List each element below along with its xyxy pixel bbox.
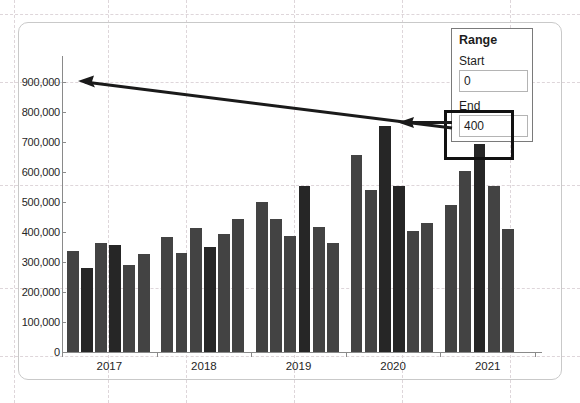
bar bbox=[365, 190, 377, 352]
x-tick-mark bbox=[251, 352, 252, 357]
start-label: Start bbox=[452, 51, 532, 70]
y-tick-label: 900,000 bbox=[18, 76, 60, 88]
x-axis-group-label: 2019 bbox=[286, 360, 312, 372]
bar bbox=[138, 254, 150, 352]
x-axis-group-label: 2020 bbox=[380, 360, 406, 372]
bar bbox=[176, 253, 188, 352]
x-axis-group-label: 2017 bbox=[97, 360, 123, 372]
bar bbox=[502, 229, 514, 352]
background-gridline-h bbox=[0, 14, 580, 15]
bar bbox=[393, 186, 405, 352]
bar bbox=[488, 186, 500, 352]
x-tick-mark bbox=[346, 352, 347, 357]
range-panel-title: Range bbox=[452, 29, 532, 51]
y-tick-label: 300,000 bbox=[18, 256, 60, 268]
y-tick-label: 0 bbox=[18, 346, 60, 358]
x-axis-group-label: 2021 bbox=[475, 360, 501, 372]
bar bbox=[95, 243, 107, 352]
y-tick-label: 800,000 bbox=[18, 106, 60, 118]
bar bbox=[351, 155, 363, 352]
bar bbox=[327, 243, 339, 352]
bar bbox=[232, 219, 244, 352]
x-tick-mark bbox=[157, 352, 158, 357]
bar bbox=[379, 126, 391, 352]
bar bbox=[407, 231, 419, 352]
bar bbox=[445, 205, 457, 352]
bar bbox=[270, 219, 282, 352]
bar bbox=[67, 251, 79, 352]
x-tick-mark bbox=[62, 352, 63, 357]
bar bbox=[190, 228, 202, 352]
bar bbox=[81, 268, 93, 352]
bar bbox=[161, 237, 173, 353]
background-gridline-v bbox=[14, 0, 15, 403]
y-tick-label: 200,000 bbox=[18, 286, 60, 298]
y-tick-label: 100,000 bbox=[18, 316, 60, 328]
bar bbox=[123, 265, 135, 352]
bar bbox=[256, 202, 268, 352]
bar bbox=[421, 223, 433, 352]
x-tick-mark bbox=[535, 352, 536, 357]
x-axis-line bbox=[62, 352, 542, 353]
x-axis-group-label: 2018 bbox=[191, 360, 217, 372]
bar bbox=[109, 245, 121, 352]
bar bbox=[284, 236, 296, 352]
start-input[interactable]: 0 bbox=[459, 70, 528, 92]
x-tick-mark bbox=[440, 352, 441, 357]
y-tick-label: 700,000 bbox=[18, 136, 60, 148]
y-tick-label: 600,000 bbox=[18, 166, 60, 178]
bar bbox=[474, 144, 486, 352]
y-tick-label: 500,000 bbox=[18, 196, 60, 208]
bar bbox=[299, 186, 311, 352]
bar bbox=[218, 234, 230, 352]
end-field-highlight-box bbox=[444, 110, 514, 160]
bar bbox=[313, 227, 325, 352]
y-tick-label: 400,000 bbox=[18, 226, 60, 238]
bar bbox=[459, 171, 471, 352]
bar bbox=[204, 247, 216, 352]
